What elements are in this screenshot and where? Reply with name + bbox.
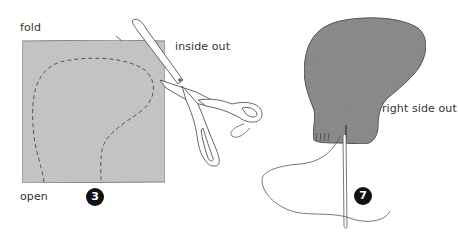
label-right-side-out: right side out	[382, 102, 457, 115]
folded-fabric	[22, 36, 165, 183]
label-fold: fold	[20, 21, 41, 34]
step-badge-7: 7	[354, 187, 372, 205]
label-open: open	[20, 190, 48, 203]
label-inside-out: inside out	[175, 40, 230, 53]
illustration	[0, 0, 459, 250]
puppet	[304, 18, 426, 144]
step-badge-3: 3	[86, 188, 104, 206]
